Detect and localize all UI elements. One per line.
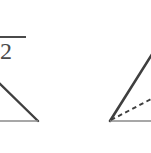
figure-vector-layer — [0, 0, 151, 153]
left-right-triangle — [0, 78, 38, 121]
left-triangle-hypotenuse — [0, 78, 38, 121]
right-triangle-left-side — [110, 48, 151, 121]
right-triangle-with-cevian — [110, 48, 151, 121]
figure-canvas: 2 — [0, 0, 151, 153]
